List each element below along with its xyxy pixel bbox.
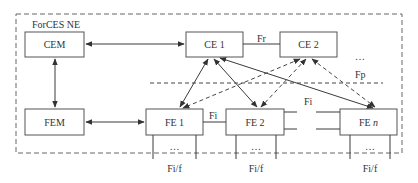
- ce2-label: CE 2: [298, 39, 318, 50]
- cem-node: CEM: [25, 32, 84, 57]
- fe2-fif-label: Fi/f: [249, 163, 264, 174]
- fe2-label: FE 2: [245, 117, 264, 128]
- fi-label-fe2-fen: Fi: [304, 96, 313, 107]
- fem-node: FEM: [25, 109, 84, 135]
- ce1-node: CE 1: [186, 32, 243, 57]
- ce-ellipsis: …: [355, 51, 365, 62]
- fe2-ellipsis: …: [251, 141, 261, 152]
- fen-node: FE n: [340, 109, 397, 135]
- cem-label: CEM: [44, 39, 66, 50]
- ce2-node: CE 2: [280, 32, 337, 57]
- ce1-label: CE 1: [204, 39, 224, 50]
- forces-ne-label: ForCES NE: [32, 19, 80, 30]
- ce1-fe1-link: [180, 59, 208, 107]
- fe1-node: FE 1: [146, 109, 203, 135]
- fem-label: FEM: [44, 117, 65, 128]
- fen-fif-label: Fi/f: [363, 163, 378, 174]
- fe2-node: FE 2: [226, 109, 284, 135]
- fp-label: Fp: [355, 69, 366, 80]
- fr-label: Fr: [257, 33, 267, 44]
- fe1-ellipsis: …: [170, 141, 180, 152]
- fe1-label: FE 1: [165, 117, 184, 128]
- fe1-fif-label: Fi/f: [167, 163, 182, 174]
- fi-label-fe1-fe2: Fi: [209, 110, 218, 121]
- forces-ne-diagram: ForCES NE Fp CEM CE 1 CE 2 … FEM FE 1 FE: [0, 0, 418, 183]
- fen-ellipsis: …: [365, 141, 375, 152]
- fen-label: FE n: [359, 117, 378, 128]
